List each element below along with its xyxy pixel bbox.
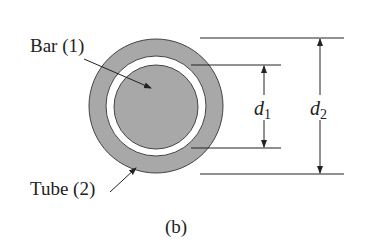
- cross-section-diagram: d1 d2 Bar (1) Tube (2) (b): [0, 0, 375, 249]
- d1-label: d1: [254, 97, 271, 122]
- figure-caption: (b): [165, 216, 187, 238]
- bar-label: Bar (1): [30, 35, 84, 57]
- tube-label: Tube (2): [30, 178, 95, 200]
- tube-leader-arrow: [110, 168, 136, 192]
- d2-label: d2: [310, 97, 327, 122]
